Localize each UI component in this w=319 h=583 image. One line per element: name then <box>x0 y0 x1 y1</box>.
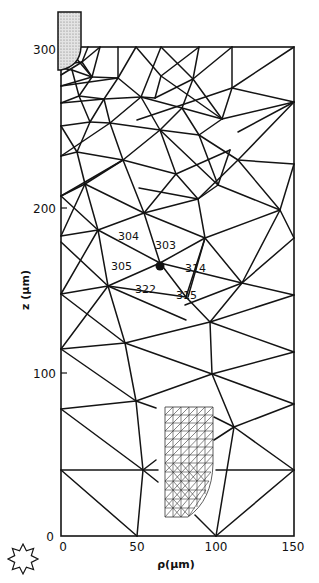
x-tick-50: 50 <box>129 540 144 554</box>
element-label-314: 314 <box>185 262 206 275</box>
electrode-tip <box>58 12 81 70</box>
x-axis: 0 50 100 150 ρ(μm) <box>59 540 304 571</box>
x-tick-150: 150 <box>282 540 305 554</box>
mesh-diagram: 304 303 305 314 322 315 300 200 100 0 z … <box>0 0 319 583</box>
y-axis-title: z (μm) <box>19 270 32 310</box>
y-axis: 300 200 100 0 z (μm) <box>19 43 67 544</box>
element-label-303: 303 <box>155 239 176 252</box>
refined-submesh <box>165 407 213 517</box>
element-label-322: 322 <box>135 283 156 296</box>
element-label-305: 305 <box>111 260 132 273</box>
x-axis-title: ρ(μm) <box>157 558 195 571</box>
element-label-315: 315 <box>176 289 197 302</box>
y-tick-0: 0 <box>46 530 54 544</box>
x-tick-0: 0 <box>59 540 67 554</box>
element-label-304: 304 <box>118 230 139 243</box>
sun-star-icon <box>8 544 38 574</box>
y-tick-200: 200 <box>33 202 56 216</box>
x-tick-100: 100 <box>205 540 228 554</box>
y-tick-300: 300 <box>33 43 56 57</box>
highlighted-node <box>156 262 165 271</box>
y-tick-100: 100 <box>33 367 56 381</box>
